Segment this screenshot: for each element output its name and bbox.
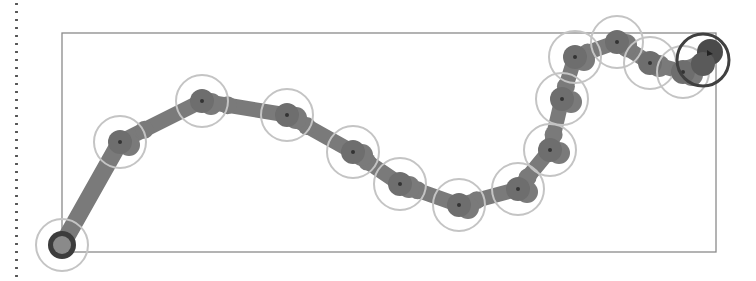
waypoint-center-dot bbox=[285, 113, 289, 117]
waypoint-center-dot bbox=[573, 55, 577, 59]
waypoint-center-dot bbox=[615, 40, 619, 44]
waypoint-layer bbox=[36, 16, 729, 271]
waypoint-center-dot bbox=[648, 61, 652, 65]
path-layer bbox=[62, 39, 703, 245]
waypoint-node bbox=[374, 158, 426, 210]
end-marker bbox=[677, 34, 729, 86]
bounding-frame bbox=[62, 33, 716, 252]
path-segment bbox=[62, 142, 120, 245]
waypoint-center-dot bbox=[457, 203, 461, 207]
waypoint-center-dot bbox=[351, 150, 355, 154]
waypoint-center-dot bbox=[200, 99, 204, 103]
trajectory-canvas bbox=[0, 0, 756, 281]
waypoint-node bbox=[94, 116, 146, 168]
waypoint-center-dot bbox=[560, 97, 564, 101]
path-diagram bbox=[0, 0, 756, 281]
waypoint-center-dot bbox=[398, 182, 402, 186]
waypoint-center-dot bbox=[118, 140, 122, 144]
waypoint-center-dot bbox=[548, 148, 552, 152]
waypoint-node bbox=[176, 75, 228, 127]
waypoint-center-dot bbox=[516, 187, 520, 191]
waypoint-node bbox=[327, 126, 379, 178]
